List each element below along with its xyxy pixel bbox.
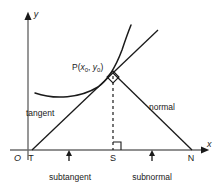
normal-label: normal xyxy=(149,102,175,112)
y-axis-label: y xyxy=(33,9,39,19)
vertex-label-s: S xyxy=(110,153,116,163)
vertex-label-t: T xyxy=(28,153,34,163)
figure-canvas: y x O T S N P(x0, y0) tangent normal sub… xyxy=(0,0,217,187)
subnormal-label: subnormal xyxy=(132,172,172,182)
geometry-figure: y x O T S N P(x0, y0) tangent normal sub… xyxy=(0,0,217,187)
point-label-p-prefix: P( xyxy=(72,62,81,72)
origin-label: O xyxy=(14,153,21,163)
right-angle-marker-at-s xyxy=(113,142,121,150)
tangent-line xyxy=(32,30,158,150)
subnormal-arrow-icon xyxy=(149,150,155,161)
subtangent-label: subtangent xyxy=(49,172,92,182)
subtangent-arrow-icon xyxy=(66,150,72,161)
tangent-label: tangent xyxy=(26,108,55,118)
point-label-p: P(x0, y0) xyxy=(72,62,103,73)
x-axis-label: x xyxy=(206,139,212,149)
point-label-p-close: ) xyxy=(100,62,103,72)
vertex-label-n: N xyxy=(188,153,195,163)
